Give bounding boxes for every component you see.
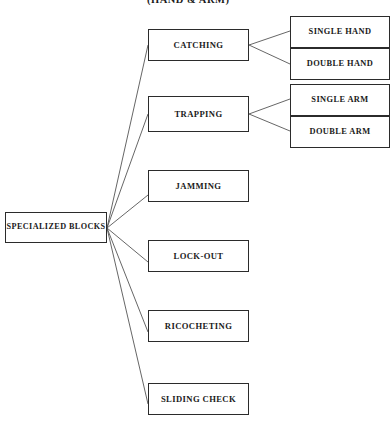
node-label-jamming: JAMMING (176, 182, 222, 191)
edge-root-to-jamming (107, 195, 148, 228)
diagram-title-label: (HAND & ARM) (147, 0, 229, 5)
node-sliding-check[interactable]: SLIDING CHECK (148, 383, 249, 415)
node-label-single-arm: SINGLE ARM (311, 96, 368, 104)
node-catching[interactable]: CATCHING (148, 29, 249, 61)
edge-root-to-sliding-check (107, 228, 148, 404)
node-label-double-arm: DOUBLE ARM (309, 128, 370, 136)
node-label-single-hand: SINGLE HAND (309, 28, 372, 36)
diagram-canvas: (HAND & ARM) SPECIALIZED BLOCKSCATCHINGS… (0, 0, 392, 423)
node-label-lock-out: LOCK-OUT (174, 252, 224, 261)
node-label-catching: CATCHING (174, 41, 224, 50)
edge-root-to-lock-out (107, 228, 148, 262)
node-jamming[interactable]: JAMMING (148, 170, 249, 202)
node-label-specialized-blocks: SPECIALIZED BLOCKS (7, 223, 106, 231)
node-label-double-hand: DOUBLE HAND (307, 60, 374, 68)
edge-root-to-ricocheting (107, 228, 148, 332)
node-double-arm[interactable]: DOUBLE ARM (290, 116, 390, 148)
node-single-hand[interactable]: SINGLE HAND (290, 16, 390, 48)
node-ricocheting[interactable]: RICOCHETING (148, 310, 249, 342)
edge-catching-to-double-hand (249, 45, 290, 64)
edge-trapping-to-double-arm (249, 114, 290, 131)
diagram-title: (HAND & ARM) (147, 0, 229, 5)
edge-catching-to-single-hand (249, 31, 290, 45)
node-label-sliding-check: SLIDING CHECK (161, 395, 236, 404)
node-label-trapping: TRAPPING (174, 110, 222, 119)
node-lock-out[interactable]: LOCK-OUT (148, 240, 249, 272)
edge-root-to-trapping (107, 114, 148, 228)
edge-root-to-catching (107, 45, 148, 228)
node-trapping[interactable]: TRAPPING (148, 96, 249, 132)
edge-trapping-to-single-arm (249, 99, 290, 114)
node-double-hand[interactable]: DOUBLE HAND (290, 48, 390, 80)
node-specialized-blocks[interactable]: SPECIALIZED BLOCKS (5, 212, 107, 243)
node-label-ricocheting: RICOCHETING (165, 322, 232, 331)
node-single-arm[interactable]: SINGLE ARM (290, 84, 390, 116)
